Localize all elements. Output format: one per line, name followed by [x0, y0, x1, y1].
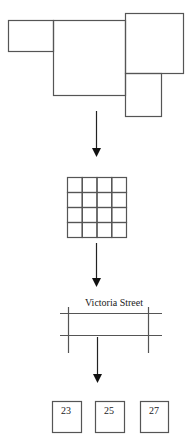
grid-cell [112, 178, 127, 193]
street-map: Victoria Street [60, 297, 162, 353]
building-footprints [9, 14, 184, 117]
house-number: 23 [61, 405, 71, 416]
arrow-down-icon [93, 337, 102, 383]
grid-cell [112, 193, 127, 208]
street-label: Victoria Street [85, 297, 143, 308]
grid-cell [97, 193, 112, 208]
arrow-down-icon [92, 111, 101, 157]
grid-cell [97, 223, 112, 238]
house-box: 23 [53, 402, 82, 433]
diagram-canvas: Victoria Street 23 25 27 [0, 0, 185, 447]
grid-cell [82, 193, 97, 208]
grid-cell [82, 223, 97, 238]
grid [68, 178, 127, 238]
building-right-top [126, 14, 184, 74]
building-left [9, 21, 54, 52]
house-box: 25 [96, 402, 125, 433]
grid-cell [97, 208, 112, 223]
grid-cell [112, 223, 127, 238]
grid-cell [82, 208, 97, 223]
house-number: 25 [104, 405, 114, 416]
grid-cell [112, 208, 127, 223]
house-box: 27 [141, 402, 169, 433]
house-numbers: 23 25 27 [53, 402, 169, 433]
grid-cell [68, 193, 83, 208]
grid-cell [97, 178, 112, 193]
arrow-down-icon [92, 243, 101, 287]
grid-cell [68, 178, 83, 193]
house-number: 27 [149, 405, 159, 416]
grid-cell [68, 223, 83, 238]
building-right-bottom [126, 74, 162, 117]
grid-cell [68, 208, 83, 223]
grid-cell [82, 178, 97, 193]
building-center [54, 21, 126, 96]
